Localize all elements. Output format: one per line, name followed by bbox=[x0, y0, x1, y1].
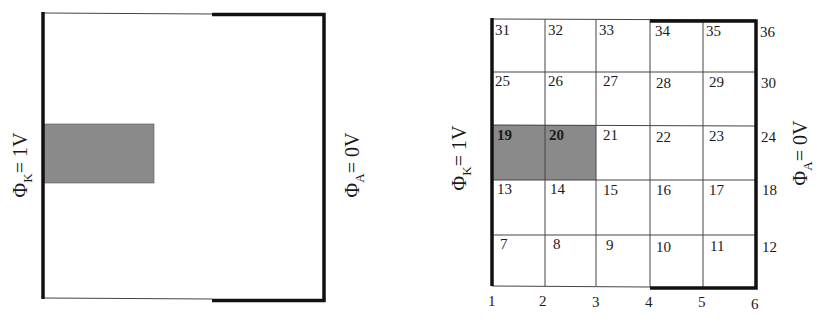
node-label: 31 bbox=[495, 22, 510, 38]
edge-node-label: 24 bbox=[761, 129, 777, 145]
node-label: 22 bbox=[656, 129, 671, 145]
node-label: 14 bbox=[550, 181, 566, 197]
node-label: 10 bbox=[656, 239, 671, 255]
bottom-node-label: 3 bbox=[592, 294, 600, 310]
edge-node-label: 18 bbox=[762, 182, 777, 198]
node-label: 26 bbox=[548, 73, 564, 89]
node-label: 8 bbox=[553, 236, 561, 252]
left-diagram: ΦK= 1V ΦA= 0V bbox=[9, 12, 367, 301]
node-label: 29 bbox=[709, 74, 724, 90]
bottom-node-label: 6 bbox=[751, 296, 759, 312]
right-diagram: 31 32 33 34 35 25 26 27 28 29 19 20 21 2… bbox=[448, 18, 815, 312]
node-label: 34 bbox=[655, 23, 671, 39]
top-insulating-edge bbox=[43, 13, 212, 14]
edge-node-label: 12 bbox=[762, 239, 777, 255]
node-label: 19 bbox=[497, 127, 512, 143]
node-label: 15 bbox=[603, 182, 618, 198]
node-label: 20 bbox=[549, 127, 564, 143]
node-label: 33 bbox=[599, 22, 614, 38]
edge-node-label: 36 bbox=[760, 24, 776, 40]
edge-node-label: 30 bbox=[761, 75, 776, 91]
figure-canvas: ΦK= 1V ΦA= 0V 31 32 bbox=[0, 0, 821, 329]
node-label: 7 bbox=[500, 236, 508, 252]
node-label: 13 bbox=[497, 181, 512, 197]
bottom-node-label: 2 bbox=[539, 293, 547, 309]
cathode-potential-label: ΦK= 1V bbox=[9, 132, 35, 197]
bottom-insulating-edge bbox=[43, 298, 212, 299]
node-label: 21 bbox=[603, 127, 618, 143]
node-label: 35 bbox=[706, 23, 721, 39]
node-label: 11 bbox=[710, 238, 724, 254]
node-label: 23 bbox=[709, 128, 724, 144]
cathode-region bbox=[44, 124, 154, 183]
grid-cathode-potential-label: ΦK= 1V bbox=[448, 125, 474, 190]
bottom-node-label: 4 bbox=[645, 294, 653, 310]
anode-edge bbox=[212, 15, 324, 301]
node-label: 17 bbox=[709, 182, 725, 198]
node-label: 27 bbox=[603, 73, 619, 89]
node-label: 28 bbox=[656, 75, 671, 91]
anode-potential-label: ΦA= 0V bbox=[341, 132, 367, 197]
node-label: 9 bbox=[606, 237, 614, 253]
bottom-node-label: 5 bbox=[698, 294, 706, 310]
node-label: 16 bbox=[656, 182, 672, 198]
grid-anode-potential-label: ΦA= 0V bbox=[789, 120, 815, 185]
node-label: 25 bbox=[495, 73, 510, 89]
node-label: 32 bbox=[548, 22, 563, 38]
bottom-node-label: 1 bbox=[488, 293, 496, 309]
